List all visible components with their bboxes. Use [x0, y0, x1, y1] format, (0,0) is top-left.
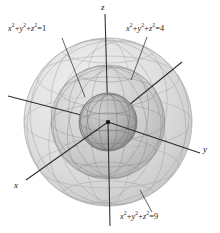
- equation-label-sphere-9: x2+y2+z2=9: [120, 212, 158, 221]
- z-axis-label: z: [101, 2, 105, 12]
- origin-dot: [106, 120, 110, 124]
- equation-label-sphere-1: x2+y2+z2=1: [8, 24, 46, 33]
- concentric-spheres-figure: [0, 0, 220, 233]
- y-axis-label: y: [203, 144, 207, 154]
- equation-label-sphere-4: x2+y2+z2=4: [126, 24, 164, 33]
- x-axis-label: x: [14, 180, 18, 190]
